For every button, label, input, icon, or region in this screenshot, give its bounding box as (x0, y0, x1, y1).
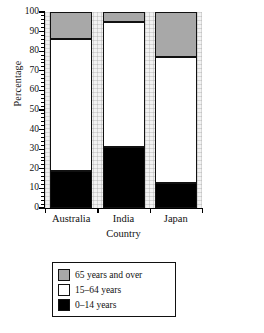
x-axis-title: Country (45, 228, 202, 239)
y-axis-tick (39, 51, 45, 52)
legend-item: 65 years and over (58, 267, 170, 282)
legend-label: 15–64 years (75, 285, 121, 295)
y-axis-minor-tick (41, 82, 45, 83)
y-axis-minor-tick (41, 55, 45, 56)
y-axis-tick-label: 0 (1, 203, 39, 213)
y-axis-minor-tick (41, 117, 45, 118)
y-axis-minor-tick (41, 204, 45, 205)
y-axis-minor-tick (41, 196, 45, 197)
bar-australia (50, 12, 92, 208)
y-axis-minor-tick (41, 74, 45, 75)
source-note-line-2: by Age and Sex, Australian States and Te… (245, 0, 264, 333)
legend-swatch-black (58, 299, 70, 311)
y-axis-minor-tick (41, 200, 45, 201)
y-axis-minor-tick (41, 62, 45, 63)
y-axis-minor-tick (41, 160, 45, 161)
y-axis-minor-tick (41, 133, 45, 134)
y-axis-tick (39, 168, 45, 169)
legend-label: 0–14 years (75, 300, 116, 310)
stacked-bar-chart-figure: 0102030405060708090100 Percentage Austra… (0, 0, 264, 333)
y-axis-tick (39, 149, 45, 150)
bar-segment (155, 12, 197, 57)
y-axis-minor-tick (41, 176, 45, 177)
source-note: Source: Australian Bureau of Statistics,… (221, 0, 264, 333)
y-axis-minor-tick (41, 113, 45, 114)
y-axis-tick-label: 10 (1, 183, 39, 193)
bar-japan (155, 12, 197, 208)
bar-segment (155, 57, 197, 182)
y-axis-minor-tick (41, 19, 45, 20)
x-axis-label-japan: Japan (141, 213, 211, 224)
x-axis-line (44, 208, 203, 209)
y-axis-title: Percentage (12, 29, 23, 139)
bar-india (103, 12, 145, 208)
y-axis-minor-tick (41, 102, 45, 103)
y-axis-tick (39, 188, 45, 189)
y-axis-minor-tick (41, 35, 45, 36)
y-axis-minor-tick (41, 106, 45, 107)
bar-segment (103, 22, 145, 147)
y-axis-minor-tick (41, 153, 45, 154)
y-axis-minor-tick (41, 86, 45, 87)
y-axis-minor-tick (41, 172, 45, 173)
legend-label: 65 years and over (75, 270, 142, 280)
y-axis-minor-tick (41, 121, 45, 122)
y-axis-minor-tick (41, 125, 45, 126)
y-axis-minor-tick (41, 27, 45, 28)
y-axis-minor-tick (41, 180, 45, 181)
legend-swatch-gray (58, 269, 70, 281)
bar-segment (103, 12, 145, 22)
y-axis-minor-tick (41, 59, 45, 60)
bar-segment (50, 39, 92, 170)
y-axis-tick (39, 11, 45, 12)
y-axis-tick (39, 207, 45, 208)
bars-container (45, 12, 202, 208)
bar-segment (103, 147, 145, 208)
y-axis-tick-label: 20 (1, 164, 39, 174)
y-axis-minor-tick (41, 145, 45, 146)
y-axis-tick (39, 70, 45, 71)
y-axis-minor-tick (41, 94, 45, 95)
bar-segment (50, 171, 92, 208)
y-axis-minor-tick (41, 184, 45, 185)
y-axis-minor-tick (41, 78, 45, 79)
y-axis-minor-tick (41, 47, 45, 48)
y-axis-tick (39, 129, 45, 130)
legend-item: 0–14 years (58, 297, 170, 312)
y-axis-minor-tick (41, 192, 45, 193)
bar-segment (155, 183, 197, 208)
y-axis-tick-label: 100 (1, 7, 39, 17)
bar-segment (50, 12, 92, 39)
y-axis-minor-tick (41, 137, 45, 138)
y-axis-minor-tick (41, 141, 45, 142)
legend-item: 15–64 years (58, 282, 170, 297)
y-axis-minor-tick (41, 164, 45, 165)
y-axis-minor-tick (41, 43, 45, 44)
y-axis-minor-tick (41, 15, 45, 16)
y-axis-tick-label: 30 (1, 144, 39, 154)
legend: 65 years and over15–64 years0–14 years (52, 262, 176, 317)
legend-swatch-white (58, 284, 70, 296)
y-axis-minor-tick (41, 23, 45, 24)
y-axis-minor-tick (41, 98, 45, 99)
y-axis-minor-tick (41, 66, 45, 67)
y-axis-tick (39, 90, 45, 91)
y-axis-minor-tick (41, 157, 45, 158)
y-axis-tick (39, 31, 45, 32)
y-axis-minor-tick (41, 39, 45, 40)
y-axis-tick (39, 109, 45, 110)
